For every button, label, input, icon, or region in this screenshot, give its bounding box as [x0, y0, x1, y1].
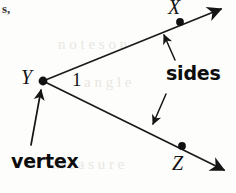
callout-label-vertex: vertex [11, 152, 79, 171]
angle-number-label: 1 [72, 70, 82, 89]
callout-arrow-lower-side [153, 94, 166, 124]
point-dot-x [176, 18, 184, 26]
point-label-z: Z [172, 153, 183, 173]
page-corner-text-fragment: s, [2, 2, 10, 15]
vertex-point-dot-y [39, 77, 48, 86]
callout-arrow-vertex [31, 90, 41, 145]
callout-arrow-upper-side [164, 35, 175, 60]
point-label-x: X [168, 0, 180, 17]
angle-diagram-figure: n o t e s o n a n g l e m e a s u r e [0, 0, 236, 193]
callout-label-sides: sides [166, 64, 221, 83]
point-dot-z [178, 142, 186, 150]
point-label-y: Y [21, 67, 32, 87]
